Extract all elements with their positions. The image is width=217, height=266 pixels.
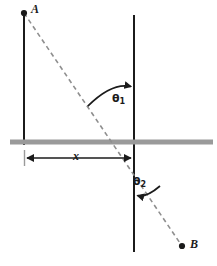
point-a-label: A — [31, 3, 39, 15]
theta1-subscript: 1 — [120, 97, 126, 106]
point-a-dot — [21, 10, 27, 16]
theta1-symbol: θ — [112, 92, 120, 105]
theta2-label: θ2 — [133, 176, 146, 187]
theta2-subscript: 2 — [141, 180, 147, 189]
distance-x-label: x — [73, 150, 79, 162]
dashed-ray-line — [24, 13, 182, 246]
diagram-svg — [0, 0, 217, 266]
point-b-label: B — [190, 238, 198, 250]
point-b-dot — [179, 243, 185, 249]
theta2-symbol: θ — [133, 175, 141, 188]
figure-canvas: A B x θ1 θ2 — [0, 0, 217, 266]
theta1-label: θ1 — [112, 93, 125, 104]
